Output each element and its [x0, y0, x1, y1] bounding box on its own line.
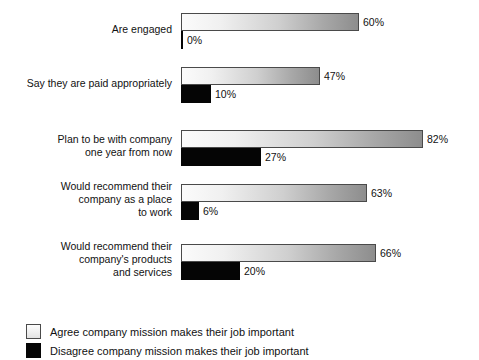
bar-value-disagree: 0%: [183, 31, 202, 49]
legend-label-agree: Agree company mission makes their job im…: [50, 323, 294, 341]
legend-item-disagree: Disagree company mission makes their job…: [26, 342, 466, 360]
bar-disagree: [181, 148, 261, 166]
bar-agree: [181, 13, 359, 31]
bar-value-disagree: 10%: [211, 85, 236, 103]
chart-legend: Agree company mission makes their job im…: [26, 323, 466, 360]
bar-value-agree: 60%: [359, 13, 384, 31]
group-label: Are engaged: [0, 23, 172, 36]
bar-value-agree: 63%: [367, 184, 392, 202]
bar-agree: [181, 244, 376, 262]
bar-value-agree: 47%: [320, 67, 345, 85]
bar-value-agree: 66%: [376, 244, 401, 262]
legend-label-disagree: Disagree company mission makes their job…: [50, 342, 309, 360]
bar-disagree: [181, 202, 199, 220]
legend-item-agree: Agree company mission makes their job im…: [26, 323, 466, 341]
bar-agree: [181, 67, 320, 85]
group-label: Would recommend their company's products…: [0, 240, 172, 279]
bar-agree: [181, 130, 423, 148]
bar-agree: [181, 184, 367, 202]
bar-disagree: [181, 85, 211, 103]
bar-value-disagree: 27%: [261, 148, 286, 166]
legend-swatch-agree-icon: [26, 324, 41, 339]
bar-value-disagree: 6%: [199, 202, 218, 220]
bar-value-disagree: 20%: [240, 262, 265, 280]
bar-value-agree: 82%: [423, 130, 448, 148]
group-label: Plan to be with company one year from no…: [0, 133, 172, 159]
bar-chart: Are engaged 60% 0% Say they are paid app…: [0, 0, 479, 360]
group-label: Would recommend their company as a place…: [0, 180, 172, 219]
bar-disagree: [181, 262, 240, 280]
legend-swatch-disagree-icon: [26, 343, 41, 358]
group-label: Say they are paid appropriately: [0, 77, 172, 90]
